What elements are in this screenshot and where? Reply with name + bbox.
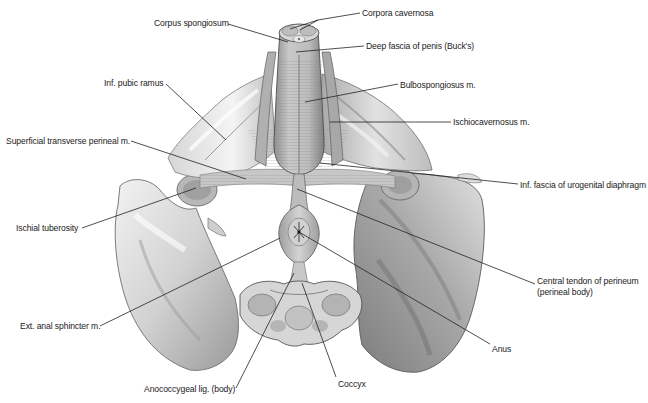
label-ext-anal-sphincter: Ext. anal sphincter m. <box>20 321 100 331</box>
label-deep-fascia-of-penis: Deep fascia of penis (Buck's) <box>366 41 474 51</box>
label-anococcygeal-ligament: Anococcygeal lig. (body) <box>144 384 235 394</box>
label-central-tendon: Central tendon of perineum <box>537 276 639 286</box>
label-bulbospongiosus: Bulbospongiosus m. <box>400 80 476 90</box>
label-inf-pubic-ramus: Inf. pubic ramus <box>104 78 164 88</box>
label-corpus-spongiosum: Corpus spongiosum <box>154 18 229 28</box>
coccyx-sacrum <box>240 281 362 346</box>
label-anus: Anus <box>492 344 511 354</box>
label-ischial-tuberosity: Ischial tuberosity <box>16 223 78 233</box>
penis-cross-section <box>279 24 319 43</box>
label-perineal-body: (perineal body) <box>537 287 593 297</box>
external-anal-sphincter <box>279 205 319 264</box>
perineum-illustration: Corpora cavernosa Corpus spongiosum Deep… <box>0 0 648 403</box>
label-ischiocavernosus: Ischiocavernosus m. <box>453 117 529 127</box>
right-hip-bone <box>354 170 484 372</box>
label-corpora-cavernosa: Corpora cavernosa <box>362 8 433 18</box>
label-inf-fascia-urogenital-diaphragm: Inf. fascia of urogenital diaphragm <box>520 180 646 190</box>
anatomy-drawing <box>0 0 648 403</box>
left-hip-bone <box>115 174 238 370</box>
label-superficial-transverse-perineal: Superficial transverse perineal m. <box>6 136 130 146</box>
label-coccyx: Coccyx <box>338 379 366 389</box>
